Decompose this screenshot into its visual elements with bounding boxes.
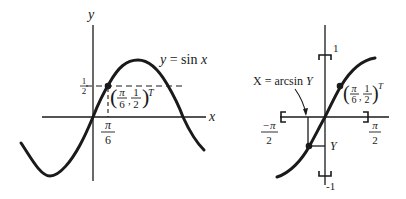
svg-text:1: 1 xyxy=(82,76,87,86)
svg-text:6: 6 xyxy=(352,94,357,105)
diagram-canvas: y x 1 2 π 6 ( π 6 , 1 2 xyxy=(0,0,406,199)
arcsin-label: X = arcsin Y xyxy=(253,74,314,88)
left-graph: y x 1 2 π 6 ( π 6 , 1 2 xyxy=(21,7,216,181)
svg-text:6: 6 xyxy=(105,133,111,147)
left-x-axis-label: x xyxy=(208,109,216,124)
half-tick-label: 1 2 xyxy=(80,76,88,96)
arrow-head-icon xyxy=(303,108,308,116)
svg-text:2: 2 xyxy=(372,134,378,146)
neg-pi2-label: −π 2 xyxy=(261,119,278,146)
svg-text:(: ( xyxy=(110,84,117,109)
pos-pi2-label: π 2 xyxy=(369,119,381,146)
curve-label: y = sin x xyxy=(158,52,208,67)
svg-text:T: T xyxy=(378,81,384,91)
sine-curve xyxy=(21,60,204,176)
bottom-label: -1 xyxy=(326,180,335,192)
svg-text:2: 2 xyxy=(82,86,87,96)
svg-text:−π: −π xyxy=(263,119,276,131)
right-graph: 1 -1 Y X = arcsin Y −π 2 π 2 xyxy=(253,25,389,192)
svg-text:(: ( xyxy=(343,82,350,105)
svg-text:1: 1 xyxy=(365,83,370,94)
Y-label: Y xyxy=(330,139,338,153)
svg-text:π: π xyxy=(105,118,112,132)
right-point-label: ( π 6 , 1 2 ) T xyxy=(343,81,384,105)
svg-text:1: 1 xyxy=(133,86,139,98)
svg-text:2: 2 xyxy=(266,134,272,146)
svg-text:,: , xyxy=(359,91,362,102)
svg-text:2: 2 xyxy=(133,98,139,110)
svg-text:,: , xyxy=(128,94,131,106)
svg-text:π: π xyxy=(119,86,125,98)
top-label: 1 xyxy=(333,42,339,54)
svg-text:T: T xyxy=(148,87,155,98)
left-point-label: ( π 6 , 1 2 ) T xyxy=(110,84,155,110)
svg-text:6: 6 xyxy=(119,98,125,110)
pi6-tick-label: π 6 xyxy=(101,118,115,147)
svg-text:2: 2 xyxy=(365,94,370,105)
svg-text:π: π xyxy=(351,83,357,94)
svg-text:π: π xyxy=(372,119,378,131)
left-y-axis-label: y xyxy=(86,7,95,22)
